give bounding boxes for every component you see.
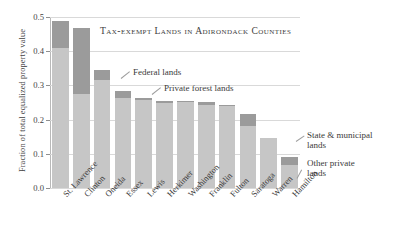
y-axis-tick-label: 0.1 xyxy=(33,149,44,159)
y-axis-tick-label: 0.5 xyxy=(33,12,44,22)
bar-segment xyxy=(52,48,69,188)
y-axis-tick xyxy=(46,188,50,189)
y-axis-tick-label: 0.3 xyxy=(33,80,44,90)
annotation-state-municipal-lands: State & municipal lands xyxy=(307,130,373,151)
annotation-federal-lands: Federal lands xyxy=(133,67,181,77)
annotation-private-forest-lands: Private forest lands xyxy=(164,83,233,93)
bar-segment xyxy=(135,98,152,100)
bar-segment xyxy=(115,98,132,188)
bar[interactable] xyxy=(177,17,194,188)
bar[interactable] xyxy=(281,17,298,188)
bar[interactable] xyxy=(156,17,173,188)
y-axis-label: Fraction of total equalized property val… xyxy=(18,11,27,191)
y-axis-tick-label: 0.4 xyxy=(33,46,44,56)
bar[interactable] xyxy=(219,17,236,188)
bar[interactable] xyxy=(52,17,69,188)
y-axis-line xyxy=(50,17,51,188)
bar[interactable] xyxy=(115,17,132,188)
bar-segment xyxy=(94,80,111,188)
annotation-other-private-lands: Other private lands xyxy=(307,158,355,179)
bar-segment xyxy=(219,105,236,106)
y-axis-tick-label: 0.2 xyxy=(33,115,44,125)
bar-segment xyxy=(177,101,194,102)
bar-segment xyxy=(281,157,298,165)
bar-segment xyxy=(94,70,111,80)
y-axis-tick xyxy=(46,17,50,18)
y-axis-tick xyxy=(46,85,50,86)
bar-segment xyxy=(135,100,152,188)
bar[interactable] xyxy=(135,17,152,188)
bar-segment xyxy=(198,102,215,105)
y-axis-tick-label: 0.0 xyxy=(33,183,44,193)
bar-segment xyxy=(73,28,90,94)
bar-segment xyxy=(52,21,69,47)
y-axis-tick xyxy=(46,120,50,121)
bar[interactable] xyxy=(240,17,257,188)
bar-segment xyxy=(115,91,132,99)
bar[interactable] xyxy=(260,17,277,188)
chart-figure: Fraction of total equalized property val… xyxy=(0,0,402,248)
y-axis-tick xyxy=(46,154,50,155)
y-axis-tick xyxy=(46,51,50,52)
bar-segment xyxy=(156,101,173,103)
bar-segment xyxy=(240,114,257,127)
